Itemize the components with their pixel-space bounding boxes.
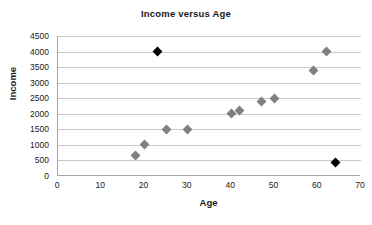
x-tick-label: 10 xyxy=(85,180,115,190)
data-point-outlier xyxy=(330,157,340,167)
y-tick-label: 2500 xyxy=(1,93,49,103)
scatter-chart: Income versus Age Income 050010001500200… xyxy=(0,0,372,225)
x-tick-label: 30 xyxy=(172,180,202,190)
y-tick-label: 3500 xyxy=(1,62,49,72)
data-point xyxy=(183,124,193,134)
y-axis-tick-labels: 050010001500200025003000350040004500 xyxy=(0,36,53,176)
gridline xyxy=(58,114,361,115)
data-point xyxy=(140,140,150,150)
plot-area xyxy=(57,36,360,176)
x-tick-label: 70 xyxy=(345,180,372,190)
data-point xyxy=(321,47,331,57)
x-tick-label: 50 xyxy=(258,180,288,190)
gridline xyxy=(58,145,361,146)
gridline xyxy=(58,36,361,37)
data-point-outlier xyxy=(153,47,163,57)
y-tick-label: 2000 xyxy=(1,109,49,119)
x-tick-label: 40 xyxy=(215,180,245,190)
data-point xyxy=(131,151,141,161)
gridline xyxy=(58,129,361,130)
x-axis-tick-labels: 010203040506070 xyxy=(57,180,360,194)
x-tick-label: 60 xyxy=(302,180,332,190)
y-tick-label: 1500 xyxy=(1,124,49,134)
gridline xyxy=(58,160,361,161)
x-axis-title: Age xyxy=(57,197,360,208)
y-tick-label: 4500 xyxy=(1,31,49,41)
y-tick-label: 3000 xyxy=(1,78,49,88)
gridline xyxy=(58,83,361,84)
data-point xyxy=(161,124,171,134)
y-tick-label: 1000 xyxy=(1,140,49,150)
y-tick-label: 4000 xyxy=(1,47,49,57)
x-tick-label: 0 xyxy=(42,180,72,190)
gridline xyxy=(58,98,361,99)
gridline xyxy=(58,52,361,53)
data-point xyxy=(269,93,279,103)
y-tick-label: 500 xyxy=(1,155,49,165)
x-tick-label: 20 xyxy=(129,180,159,190)
chart-title: Income versus Age xyxy=(0,8,372,19)
